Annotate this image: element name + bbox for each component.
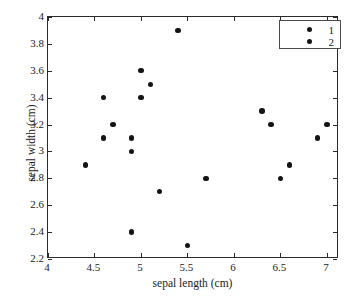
y-tick-mark <box>48 259 52 260</box>
x-tick-mark <box>234 253 235 257</box>
legend-label: 2 <box>329 36 335 48</box>
y-tick-mark <box>333 17 337 18</box>
x-tick-label: 4 <box>44 261 50 273</box>
y-tick-label: 4 <box>39 10 45 22</box>
x-tick-mark <box>141 17 142 21</box>
y-tick-mark <box>333 205 337 206</box>
data-point <box>175 28 180 33</box>
y-tick-mark <box>48 71 52 72</box>
data-point <box>129 229 134 234</box>
y-tick-mark <box>333 232 337 233</box>
y-tick-label: 3.8 <box>30 37 44 49</box>
y-tick-label: 3 <box>39 144 45 156</box>
y-tick-label: 2.4 <box>30 225 44 237</box>
y-tick-mark <box>48 151 52 152</box>
y-tick-mark <box>48 44 52 45</box>
y-tick-mark <box>333 71 337 72</box>
y-tick-mark <box>48 178 52 179</box>
data-point <box>203 176 208 181</box>
data-points-layer <box>48 17 337 257</box>
data-point <box>129 135 134 140</box>
y-tick-mark <box>48 98 52 99</box>
data-point <box>259 108 264 113</box>
y-tick-label: 2.2 <box>30 252 44 264</box>
x-axis-title: sepal length (cm) <box>47 277 338 289</box>
data-point <box>315 135 320 140</box>
x-tick-mark <box>327 253 328 257</box>
y-tick-mark <box>48 205 52 206</box>
data-point <box>185 243 190 248</box>
data-point <box>287 162 292 167</box>
y-tick-mark <box>333 178 337 179</box>
data-point <box>324 122 329 127</box>
data-point <box>157 189 162 194</box>
y-tick-mark <box>48 232 52 233</box>
x-tick-mark <box>94 253 95 257</box>
data-point <box>110 122 115 127</box>
data-point <box>129 149 134 154</box>
y-tick-mark <box>333 151 337 152</box>
x-tick-mark <box>187 253 188 257</box>
y-tick-mark <box>333 259 337 260</box>
y-tick-mark <box>333 98 337 99</box>
x-tick-mark <box>48 253 49 257</box>
y-axis-title: sepal width (cm) <box>25 68 37 218</box>
legend-label: 1 <box>329 24 335 36</box>
x-tick-mark <box>141 253 142 257</box>
data-point <box>138 95 143 100</box>
x-tick-label: 6 <box>230 261 236 273</box>
x-tick-mark <box>234 17 235 21</box>
y-tick-mark <box>333 125 337 126</box>
plot-area: 12 <box>47 16 338 258</box>
data-point <box>138 68 143 73</box>
scatter-plot-figure: 12 44.555.566.57 2.22.42.62.833.23.43.63… <box>0 0 355 299</box>
y-tick-mark <box>48 125 52 126</box>
legend-marker-icon <box>307 39 312 44</box>
data-point <box>148 82 153 87</box>
legend-marker-icon <box>307 27 312 32</box>
x-tick-mark <box>280 253 281 257</box>
y-tick-mark <box>48 17 52 18</box>
legend-entry: 2 <box>280 35 340 48</box>
legend-box: 12 <box>279 20 341 49</box>
data-point <box>101 95 106 100</box>
x-tick-mark <box>94 17 95 21</box>
data-point <box>278 176 283 181</box>
x-tick-label: 5.5 <box>180 261 194 273</box>
x-tick-label: 5 <box>137 261 143 273</box>
x-tick-label: 7 <box>323 261 329 273</box>
x-tick-label: 6.5 <box>273 261 287 273</box>
data-point <box>83 162 88 167</box>
x-tick-mark <box>187 17 188 21</box>
data-point <box>101 135 106 140</box>
x-tick-label: 4.5 <box>87 261 101 273</box>
data-point <box>268 122 273 127</box>
